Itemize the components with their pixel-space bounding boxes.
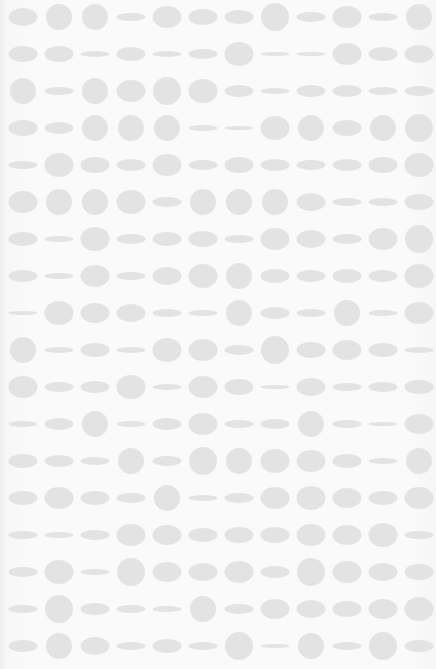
ellipse-dot xyxy=(261,449,290,473)
ellipse-dot xyxy=(45,382,74,392)
ellipse-dot xyxy=(297,378,326,396)
ellipse-dot xyxy=(405,414,434,434)
ellipse-dot xyxy=(405,194,434,210)
ellipse-dot xyxy=(82,115,108,141)
ellipse-dot xyxy=(117,524,146,546)
ellipse-dot xyxy=(153,639,182,653)
ellipse-dot xyxy=(9,531,38,539)
ellipse-dot xyxy=(405,86,434,96)
ellipse-dot xyxy=(9,567,38,577)
ellipse-dot xyxy=(190,189,216,215)
ellipse-dot xyxy=(45,560,74,584)
ellipse-dot xyxy=(369,343,398,357)
ellipse-dot xyxy=(153,197,182,207)
ellipse-dot xyxy=(369,310,398,316)
ellipse-dot xyxy=(297,309,326,317)
ellipse-dot xyxy=(297,230,326,248)
dot-pattern-canvas xyxy=(0,0,436,669)
ellipse-dot xyxy=(333,420,362,428)
ellipse-dot xyxy=(225,157,254,173)
ellipse-dot xyxy=(334,300,360,326)
ellipse-dot xyxy=(405,347,434,353)
ellipse-dot xyxy=(45,87,74,95)
ellipse-dot xyxy=(333,159,362,171)
ellipse-dot xyxy=(189,49,218,59)
ellipse-dot xyxy=(226,189,252,215)
ellipse-dot xyxy=(117,190,146,214)
ellipse-dot xyxy=(333,601,362,617)
ellipse-dot xyxy=(10,337,36,363)
ellipse-dot xyxy=(225,420,254,428)
ellipse-dot xyxy=(189,160,218,170)
ellipse-dot xyxy=(81,530,110,540)
ellipse-dot xyxy=(297,12,326,22)
ellipse-dot xyxy=(46,633,72,659)
ellipse-dot xyxy=(333,561,362,583)
ellipse-dot xyxy=(406,448,432,474)
ellipse-dot xyxy=(225,527,254,543)
ellipse-dot xyxy=(225,379,254,395)
ellipse-dot xyxy=(333,85,362,97)
ellipse-dot xyxy=(81,603,110,615)
ellipse-dot xyxy=(45,301,74,325)
ellipse-dot xyxy=(333,234,362,244)
ellipse-dot xyxy=(153,384,182,390)
ellipse-dot xyxy=(405,264,434,288)
ellipse-dot xyxy=(154,485,180,511)
ellipse-dot xyxy=(369,270,398,282)
ellipse-dot xyxy=(153,562,182,582)
ellipse-dot xyxy=(153,232,182,246)
ellipse-dot xyxy=(9,232,38,246)
ellipse-dot xyxy=(118,115,144,141)
ellipse-dot xyxy=(297,160,326,170)
ellipse-dot xyxy=(405,225,433,253)
ellipse-dot xyxy=(117,304,146,322)
ellipse-dot xyxy=(226,300,252,326)
ellipse-dot xyxy=(370,115,396,141)
ellipse-dot xyxy=(261,487,290,509)
ellipse-dot xyxy=(261,116,290,140)
ellipse-dot xyxy=(10,78,36,104)
ellipse-dot xyxy=(189,413,218,435)
ellipse-dot xyxy=(261,307,290,319)
ellipse-dot xyxy=(261,527,290,543)
ellipse-dot xyxy=(45,46,74,62)
ellipse-dot xyxy=(225,561,254,583)
ellipse-dot xyxy=(82,189,108,215)
ellipse-dot xyxy=(226,263,252,289)
ellipse-dot xyxy=(9,120,38,136)
ellipse-dot xyxy=(9,640,38,652)
ellipse-dot xyxy=(405,564,434,580)
ellipse-dot xyxy=(9,161,38,169)
ellipse-dot xyxy=(333,488,362,508)
ellipse-dot xyxy=(81,457,110,465)
ellipse-dot xyxy=(333,6,362,28)
ellipse-dot xyxy=(154,115,180,141)
ellipse-dot xyxy=(369,47,398,61)
ellipse-dot xyxy=(226,448,252,474)
ellipse-dot xyxy=(297,193,326,211)
ellipse-dot xyxy=(117,47,146,61)
ellipse-dot xyxy=(117,13,146,21)
ellipse-dot xyxy=(117,347,146,353)
ellipse-dot xyxy=(189,231,218,247)
ellipse-dot xyxy=(82,411,108,437)
ellipse-dot xyxy=(369,87,398,95)
ellipse-dot xyxy=(9,454,38,468)
ellipse-dot xyxy=(45,273,74,279)
ellipse-dot xyxy=(118,448,144,474)
ellipse-dot xyxy=(261,566,290,578)
ellipse-dot xyxy=(45,236,74,242)
ellipse-dot xyxy=(45,455,74,467)
ellipse-dot xyxy=(82,4,108,30)
ellipse-dot xyxy=(333,269,362,283)
ellipse-dot xyxy=(369,157,398,173)
ellipse-dot xyxy=(189,495,218,501)
ellipse-dot xyxy=(45,532,74,538)
ellipse-dot xyxy=(405,153,434,177)
ellipse-dot xyxy=(405,114,433,142)
ellipse-dot xyxy=(261,599,290,619)
ellipse-dot xyxy=(9,270,38,282)
ellipse-dot xyxy=(117,642,146,650)
ellipse-dot xyxy=(405,45,434,63)
